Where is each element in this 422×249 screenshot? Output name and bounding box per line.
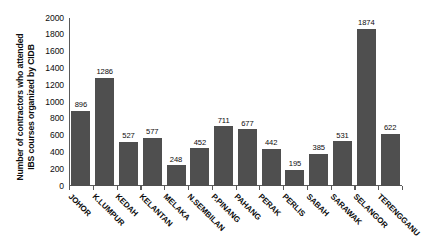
bar-value-label: 531 [328,132,358,140]
bar[interactable] [309,154,328,186]
bar-value-label: 452 [185,139,215,147]
plot-area: 8961286527577248452711677442195385531187… [69,18,402,186]
y-axis-tick-label: 400 [32,148,64,157]
bar-slot: 248 [164,18,188,186]
x-axis-category-label: JOHOR [67,192,93,218]
bar[interactable] [333,141,352,186]
y-axis-tick-label: 600 [32,131,64,140]
bar-value-label: 622 [375,124,405,132]
x-axis-category-label: TERENGGANU [376,192,422,238]
y-axis-tick-label: 1600 [32,47,64,56]
y-axis-tick-label: 1200 [32,81,64,90]
bar-slot: 527 [117,18,141,186]
bar-slot: 1874 [354,18,378,186]
bar-slot: 195 [283,18,307,186]
bar[interactable] [357,29,376,186]
bar-slot: 711 [212,18,236,186]
bar-value-label: 896 [66,101,96,109]
x-axis-category-labels: JOHORK.LUMPURKEDAHKELANTANMELAKAN.SEMBIL… [69,190,419,249]
bar[interactable] [262,149,281,186]
bar-value-label: 248 [161,156,191,164]
bar-slot: 677 [236,18,260,186]
y-axis-tick-label: 200 [32,165,64,174]
bar-value-label: 677 [232,120,262,128]
bar-slot: 896 [69,18,93,186]
bar-value-label: 1286 [90,68,120,76]
x-axis-category-label: SABAH [304,192,330,218]
bars-layer: 8961286527577248452711677442195385531187… [69,18,402,186]
y-axis-title-line-1: Number of contractors who attended [15,34,27,181]
bar-value-label: 1874 [351,19,381,27]
y-axis-tick-label: 800 [32,114,64,123]
bar-slot: 1286 [93,18,117,186]
y-axis-tick-label: 1800 [32,30,64,39]
bar[interactable] [190,148,209,186]
bar-slot: 385 [307,18,331,186]
y-axis-tick-label: 0 [32,182,64,191]
bar[interactable] [95,78,114,186]
y-axis-tick-label: 1400 [32,64,64,73]
bar[interactable] [381,134,400,186]
bar[interactable] [285,170,304,186]
bar-slot: 452 [188,18,212,186]
bar-slot: 622 [378,18,402,186]
y-axis-tick-label: 2000 [32,14,64,23]
bar[interactable] [238,129,257,186]
bar-value-label: 385 [304,144,334,152]
y-axis-tick-label: 1000 [32,98,64,107]
bar[interactable] [71,111,90,186]
bar-value-label: 195 [280,160,310,168]
bar[interactable] [119,142,138,186]
bar-value-label: 577 [137,128,167,136]
bar[interactable] [167,165,186,186]
x-axis-category-label: PERLIS [281,192,307,218]
bar[interactable] [214,126,233,186]
bar[interactable] [143,138,162,186]
bar-value-label: 442 [256,139,286,147]
y-axis-tick-labels: 2000180016001400120010008006004002000 [32,12,64,192]
bar-slot: 531 [331,18,355,186]
